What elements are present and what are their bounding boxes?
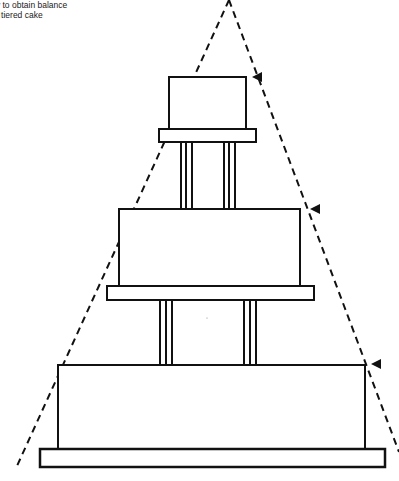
speck — [206, 317, 207, 318]
top-tier-plate — [159, 129, 256, 142]
middle-tier-plate — [107, 286, 314, 300]
bottom-tier-plate — [40, 449, 385, 467]
bottom-tier — [40, 359, 385, 467]
bottom-tier-marker-icon — [371, 359, 381, 369]
middle-tier — [107, 204, 320, 300]
upper-pillars — [181, 142, 235, 209]
tiered-cake-diagram — [0, 0, 399, 481]
lower-pillars — [160, 300, 256, 365]
middle-tier-marker-icon — [310, 204, 320, 214]
top-tier — [159, 72, 262, 142]
